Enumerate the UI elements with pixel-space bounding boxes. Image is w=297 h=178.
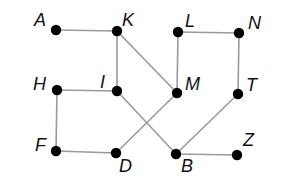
nodes-group (51, 25, 244, 160)
node-label-i: I (100, 72, 105, 92)
node-l (173, 27, 183, 37)
edge-n-t (238, 33, 239, 94)
node-label-l: L (185, 11, 195, 31)
node-label-m: M (185, 74, 200, 94)
node-label-z: Z (242, 130, 255, 150)
node-n (234, 28, 244, 38)
node-z (232, 150, 242, 160)
node-m (172, 88, 182, 98)
edge-a-k (56, 30, 117, 31)
edge-l-n (178, 32, 239, 33)
node-k (112, 26, 122, 36)
node-f (51, 146, 61, 156)
edge-k-m (117, 31, 177, 93)
node-label-d: D (119, 156, 132, 176)
node-b (171, 149, 181, 159)
edge-h-i (57, 90, 117, 91)
node-t (233, 89, 243, 99)
node-label-h: H (33, 74, 47, 94)
node-label-k: K (122, 10, 135, 30)
edges-group (56, 30, 239, 155)
node-h (52, 85, 62, 95)
edge-m-d (116, 93, 177, 153)
edge-h-f (56, 90, 57, 151)
graph-diagram: AKLNHIMTFDBZ (0, 0, 297, 178)
node-a (51, 25, 61, 35)
edge-l-m (177, 32, 178, 93)
edge-f-d (56, 151, 116, 153)
node-i (112, 86, 122, 96)
node-label-a: A (33, 10, 46, 30)
node-label-b: B (181, 156, 193, 176)
node-label-f: F (35, 135, 47, 155)
node-label-t: T (246, 75, 259, 95)
edge-t-b (176, 94, 238, 154)
node-label-n: N (248, 13, 262, 33)
edge-b-z (176, 154, 237, 155)
